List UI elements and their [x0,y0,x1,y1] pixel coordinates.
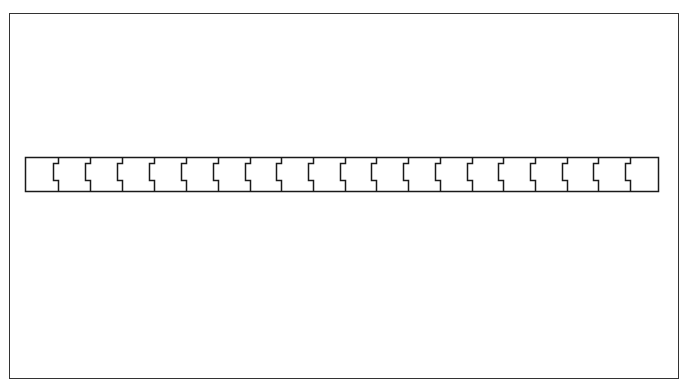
strip-group [26,158,659,192]
strip-outline [26,158,659,192]
segmented-strip [0,0,687,386]
